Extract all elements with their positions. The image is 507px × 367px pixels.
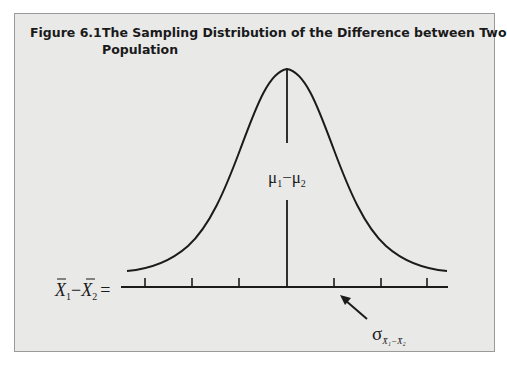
axis-ticks	[145, 278, 427, 287]
mean-difference-label: μ1−μ2	[268, 168, 306, 189]
standard-error-label: σX̄₁−X̄₂	[372, 323, 406, 346]
axis-label: X1−X2=	[54, 279, 110, 302]
sigma-arrow	[340, 295, 367, 319]
svg-text:X1−X2=: X1−X2=	[54, 280, 110, 302]
distribution-diagram: μ1−μ2 X1−X2= σX̄₁−X̄₂	[0, 0, 507, 367]
